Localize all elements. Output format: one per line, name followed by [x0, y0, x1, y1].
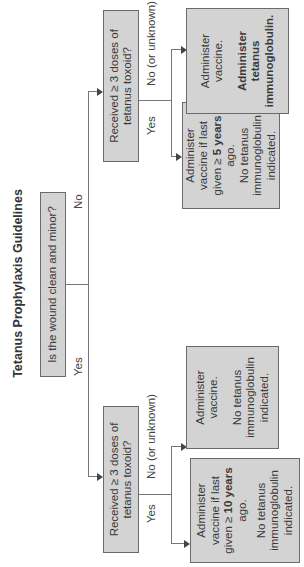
right-crossbar: [171, 50, 172, 157]
right-yes-label: Yes: [145, 116, 157, 135]
left-no-label: No (or unknown): [145, 394, 157, 479]
root-question-box: Is the wound clean and minor?: [40, 192, 66, 377]
right-question-text: Received ≥ 3 doses of tetanus toxoid?: [108, 17, 135, 155]
right-yes-outcome-box: Administer vaccine if last given ≥ 5 yea…: [182, 102, 280, 209]
diagram-title: Tetanus Prophylaxis Guidelines: [11, 0, 25, 567]
right-stem: [139, 100, 171, 101]
right-question-box: Received ≥ 3 doses of tetanus toxoid?: [103, 10, 139, 162]
left-no-outcome-line1: Administer vaccine.: [194, 355, 221, 440]
root-stem: [66, 284, 88, 285]
left-no-outcome-line2: No tetanus immunoglobulin indicated.: [231, 347, 272, 448]
left-yes-outcome-line2: No tetanus immunoglobulin indicated.: [255, 460, 296, 561]
left-yes-outcome-box: Administer vaccine if last given ≥ 10 ye…: [190, 458, 300, 563]
flowchart-canvas: Tetanus Prophylaxis Guidelines Is the wo…: [0, 0, 304, 567]
root-no-label: No: [72, 194, 84, 209]
root-question-text: Is the wound clean and minor?: [46, 206, 60, 363]
left-yes-outcome-line1: Administer vaccine if last given ≥ 10 ye…: [195, 465, 249, 556]
left-yes-drop: [171, 543, 185, 544]
right-yes-outcome-line1: Administer vaccine if last given ≥ 5 yea…: [184, 109, 238, 202]
right-yes-outcome-line2: No tetanus immunoglobulin indicated.: [238, 105, 279, 206]
right-no-outcome-box: Administer vaccine. Administer tetanus i…: [186, 8, 289, 114]
left-no-outcome-box: Administer vaccine. No tetanus immunoglo…: [186, 346, 279, 449]
right-no-outcome-line2: Administer tetanus immunoglobulin.: [236, 15, 277, 108]
root-crossbar: [88, 92, 89, 477]
root-yes-label: Yes: [72, 357, 84, 376]
left-yes-label: Yes: [145, 504, 157, 523]
left-question-box: Received ≥ 3 doses of tetanus toxoid?: [103, 406, 139, 553]
left-question-text: Received ≥ 3 doses of tetanus toxoid?: [108, 413, 135, 546]
right-no-outcome-line1: Administer vaccine.: [199, 17, 226, 105]
left-crossbar: [171, 447, 172, 544]
right-no-label: No (or unknown): [145, 1, 157, 86]
left-stem: [139, 494, 171, 495]
